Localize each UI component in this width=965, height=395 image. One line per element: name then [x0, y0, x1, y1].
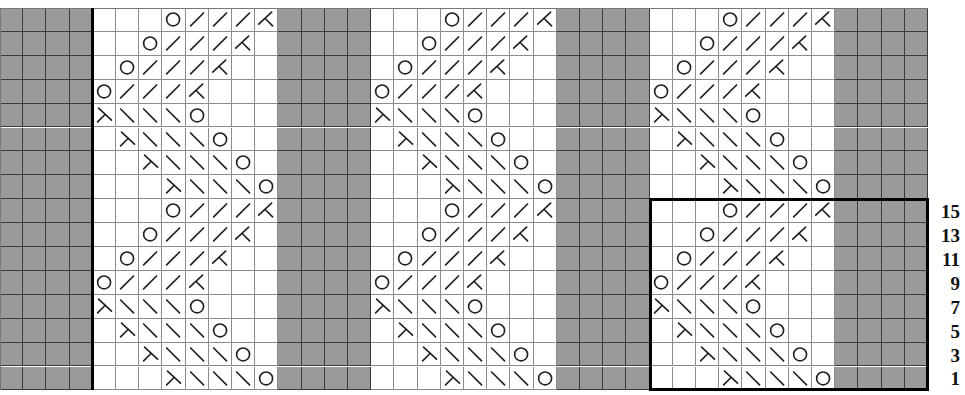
no-stitch-cell — [46, 199, 69, 223]
knit-cell — [232, 271, 255, 295]
no-stitch-cell — [580, 151, 603, 175]
no-stitch-cell — [70, 32, 93, 56]
knit-cell — [232, 128, 255, 152]
stitch-cell — [139, 56, 162, 80]
no-stitch-cell — [278, 151, 301, 175]
stitch-cell — [696, 223, 719, 247]
stitch-cell — [510, 343, 533, 367]
knit-cell — [673, 343, 696, 367]
no-stitch-cell — [835, 56, 858, 80]
no-stitch-cell — [70, 295, 93, 319]
knit-cell — [116, 32, 139, 56]
no-stitch-cell — [302, 56, 325, 80]
no-stitch-cell — [302, 223, 325, 247]
knit-cell — [673, 199, 696, 223]
knit-cell — [534, 271, 557, 295]
stitch-cell — [116, 271, 139, 295]
no-stitch-cell — [580, 128, 603, 152]
no-stitch-cell — [348, 151, 371, 175]
no-stitch-cell — [626, 8, 649, 32]
no-stitch-cell — [302, 8, 325, 32]
no-stitch-cell — [557, 319, 580, 343]
no-stitch-cell — [835, 319, 858, 343]
knit-cell — [673, 367, 696, 391]
no-stitch-cell — [580, 199, 603, 223]
knit-cell — [139, 175, 162, 199]
knit-cell — [93, 199, 116, 223]
stitch-cell — [116, 128, 139, 152]
knit-cell — [812, 319, 835, 343]
no-stitch-cell — [23, 271, 46, 295]
no-stitch-cell — [70, 367, 93, 391]
knit-cell — [510, 56, 533, 80]
stitch-cell — [394, 271, 417, 295]
stitch-cell — [394, 56, 417, 80]
no-stitch-cell — [46, 80, 69, 104]
stitch-cell — [371, 80, 394, 104]
stitch-cell — [464, 56, 487, 80]
stitch-cell — [441, 319, 464, 343]
no-stitch-cell — [626, 128, 649, 152]
stitch-cell — [742, 151, 765, 175]
no-stitch-cell — [835, 343, 858, 367]
knit-cell — [371, 56, 394, 80]
no-stitch-cell — [835, 367, 858, 391]
stitch-cell — [766, 56, 789, 80]
no-stitch-cell — [835, 223, 858, 247]
no-stitch-cell — [46, 223, 69, 247]
stitch-cell — [487, 8, 510, 32]
knit-cell — [255, 343, 278, 367]
no-stitch-cell — [835, 128, 858, 152]
no-stitch-cell — [835, 271, 858, 295]
no-stitch-cell — [905, 175, 928, 199]
no-stitch-cell — [23, 223, 46, 247]
stitch-cell — [162, 199, 185, 223]
no-stitch-cell — [325, 32, 348, 56]
knit-cell — [255, 32, 278, 56]
stitch-cell — [464, 80, 487, 104]
no-stitch-cell — [0, 367, 23, 391]
stitch-cell — [487, 128, 510, 152]
no-stitch-cell — [325, 319, 348, 343]
stitch-cell — [232, 8, 255, 32]
knit-cell — [650, 199, 673, 223]
knit-cell — [255, 223, 278, 247]
stitch-cell — [371, 104, 394, 128]
stitch-cell — [93, 295, 116, 319]
stitch-cell — [464, 223, 487, 247]
no-stitch-cell — [23, 295, 46, 319]
stitch-cell — [255, 8, 278, 32]
no-stitch-cell — [557, 8, 580, 32]
no-stitch-cell — [70, 319, 93, 343]
knit-cell — [487, 80, 510, 104]
knit-cell — [650, 32, 673, 56]
knit-cell — [232, 295, 255, 319]
no-stitch-cell — [46, 271, 69, 295]
stitch-cell — [255, 367, 278, 391]
stitch-cell — [139, 128, 162, 152]
no-stitch-cell — [557, 247, 580, 271]
knit-cell — [673, 175, 696, 199]
knit-cell — [232, 104, 255, 128]
knit-cell — [255, 295, 278, 319]
no-stitch-cell — [46, 32, 69, 56]
knit-cell — [650, 8, 673, 32]
stitch-cell — [650, 104, 673, 128]
stitch-cell — [116, 247, 139, 271]
no-stitch-cell — [70, 151, 93, 175]
stitch-cell — [186, 80, 209, 104]
stitch-cell — [139, 32, 162, 56]
no-stitch-cell — [278, 32, 301, 56]
stitch-cell — [673, 319, 696, 343]
knit-cell — [116, 151, 139, 175]
knit-cell — [766, 295, 789, 319]
no-stitch-cell — [70, 104, 93, 128]
stitch-cell — [742, 56, 765, 80]
no-stitch-cell — [325, 151, 348, 175]
no-stitch-cell — [70, 128, 93, 152]
stitch-cell — [673, 104, 696, 128]
stitch-cell — [209, 128, 232, 152]
stitch-cell — [766, 8, 789, 32]
no-stitch-cell — [278, 271, 301, 295]
knit-cell — [116, 223, 139, 247]
